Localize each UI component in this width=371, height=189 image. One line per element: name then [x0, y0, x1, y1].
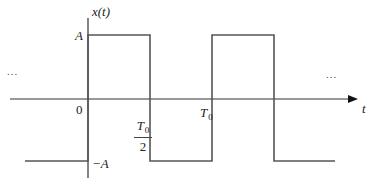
half-period-numerator: T0 [133, 119, 153, 135]
period-label: T0 [200, 106, 213, 122]
y-axis-label: x(t) [92, 5, 110, 18]
signal-plot [0, 0, 371, 189]
fraction-bar [134, 137, 152, 138]
half-period-label: T0 2 [133, 119, 153, 153]
square-waveform [25, 35, 335, 161]
origin-label: 0 [76, 103, 83, 116]
half-period-denominator: 2 [133, 140, 153, 153]
x-axis-label: t [362, 102, 366, 115]
continuation-right-ellipsis: ... [326, 69, 337, 80]
low-level-label: −A [92, 157, 109, 170]
t-axis-arrowhead-icon [348, 95, 358, 103]
high-level-label: A [75, 29, 83, 42]
continuation-left-ellipsis: ... [7, 66, 18, 77]
